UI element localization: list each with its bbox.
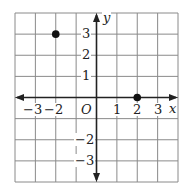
axes: [15, 13, 178, 182]
x-axis-label: x: [168, 102, 177, 115]
x-tick-2: 2: [132, 103, 142, 116]
x-tick-1: 1: [112, 103, 122, 116]
x-tick-3: 3: [153, 103, 163, 116]
y-axis-label: y: [102, 11, 111, 24]
origin-label: O: [80, 103, 93, 116]
y-tick-neg3: −3: [74, 154, 95, 167]
x-axis-arrow-left-icon: [15, 94, 24, 101]
x-tick-neg3: −3: [22, 103, 43, 116]
y-axis-arrow-up-icon: [93, 13, 100, 22]
y-axis-arrow-down-icon: [93, 173, 100, 182]
y-tick-2: 2: [81, 48, 91, 61]
data-point: [133, 94, 141, 102]
y-tick-3: 3: [81, 27, 91, 40]
y-tick-1: 1: [81, 69, 91, 82]
y-tick-neg2: −2: [74, 133, 95, 146]
data-point: [52, 30, 60, 38]
x-tick-neg2: −2: [43, 103, 64, 116]
x-axis-arrow-right-icon: [169, 94, 178, 101]
